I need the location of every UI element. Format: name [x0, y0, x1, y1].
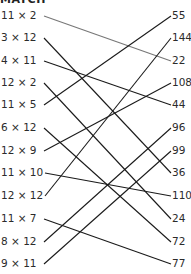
right-answer[interactable]: 22	[172, 54, 185, 66]
left-expression[interactable]: 3 × 12	[1, 31, 37, 43]
left-expression[interactable]: 6 × 12	[1, 121, 37, 133]
right-answer[interactable]: 108	[172, 76, 191, 88]
left-expression[interactable]: 12 × 9	[1, 144, 37, 156]
right-answer[interactable]: 36	[172, 166, 185, 178]
connection-line	[44, 16, 171, 105]
connection-line	[45, 38, 171, 196]
left-expression[interactable]: 11 × 10	[1, 166, 43, 178]
connection-line	[44, 151, 171, 264]
right-answer[interactable]: 99	[172, 144, 185, 156]
right-answer[interactable]: 44	[172, 98, 185, 110]
connection-line	[44, 16, 171, 61]
right-answer[interactable]: 72	[172, 235, 185, 247]
left-expression[interactable]: 11 × 2	[1, 9, 37, 21]
connection-line	[44, 61, 171, 105]
left-expression[interactable]: 9 × 11	[1, 257, 37, 269]
right-answer[interactable]: 55	[172, 9, 185, 21]
left-expression[interactable]: 12 × 2	[1, 76, 37, 88]
right-answer[interactable]: 77	[172, 257, 185, 269]
connection-line	[44, 219, 171, 264]
left-expression[interactable]: 12 × 12	[1, 189, 43, 201]
right-answer[interactable]: 110	[172, 189, 191, 201]
left-expression[interactable]: 11 × 7	[1, 212, 37, 224]
connection-line	[44, 83, 171, 219]
left-expression[interactable]: 4 × 11	[1, 54, 37, 66]
right-answer[interactable]: 144	[172, 31, 191, 43]
right-answer[interactable]: 96	[172, 121, 185, 133]
connection-line	[44, 38, 171, 173]
left-expression[interactable]: 11 × 5	[1, 98, 37, 110]
left-expression[interactable]: 8 × 12	[1, 235, 37, 247]
right-answer[interactable]: 24	[172, 212, 185, 224]
